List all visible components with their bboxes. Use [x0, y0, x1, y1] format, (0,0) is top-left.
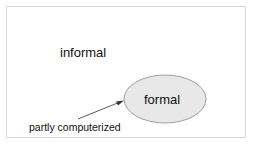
informal-label: informal [60, 45, 106, 60]
partly-computerized-label: partly computerized [29, 121, 121, 133]
formal-label: formal [144, 92, 180, 107]
arrow-icon [78, 101, 124, 120]
